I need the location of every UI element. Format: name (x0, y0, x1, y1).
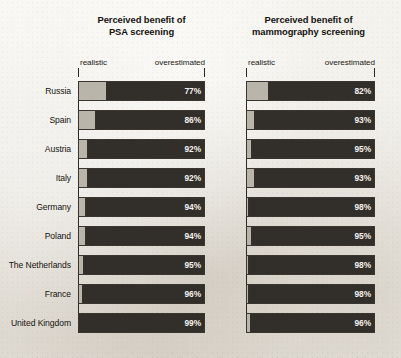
country-label-poland: Poland (45, 232, 71, 241)
panel-title-mammography: Perceived benefit of mammography screeni… (216, 14, 401, 37)
panel-title-mammography-line2: mammography screening (216, 26, 401, 38)
country-label-column: RussiaSpainAustriaItalyGermanyPolandThe … (0, 0, 71, 358)
axis-tick-psa-right (204, 68, 205, 77)
bar-value-psa-russia: 77% (185, 87, 201, 95)
paired-bar-chart-figure: Perceived benefit of PSA screening Perce… (0, 0, 401, 358)
bar-value-psa-the-netherlands: 95% (185, 261, 201, 269)
bar-row-mammography-austria: 95% (246, 139, 375, 159)
bar-segment-realistic-psa-spain (78, 110, 96, 130)
axis-label-psa-overestimated: overestimated (78, 58, 205, 67)
bar-segment-realistic-mammography-spain (246, 110, 255, 130)
country-label-the-netherlands: The Netherlands (9, 261, 71, 270)
bar-value-psa-united-kingdom: 99% (185, 319, 201, 327)
bar-value-mammography-poland: 95% (355, 232, 371, 240)
bar-value-psa-germany: 94% (185, 203, 201, 211)
bar-value-mammography-france: 98% (355, 290, 371, 298)
bar-row-psa-poland: 94% (78, 226, 205, 246)
country-label-spain: Spain (49, 116, 71, 125)
bar-row-mammography-germany: 98% (246, 197, 375, 217)
axis-tick-mammography-right (374, 68, 375, 77)
country-label-austria: Austria (45, 145, 71, 154)
bar-segment-realistic-psa-austria (78, 139, 88, 159)
panel-title-psa-line1: Perceived benefit of (97, 14, 185, 25)
bar-row-mammography-the-netherlands: 98% (246, 255, 375, 275)
country-label-germany: Germany (36, 203, 71, 212)
country-label-france: France (45, 290, 71, 299)
bar-row-psa-france: 96% (78, 284, 205, 304)
bar-row-mammography-spain: 93% (246, 110, 375, 130)
bar-value-psa-austria: 92% (185, 145, 201, 153)
axis-tick-psa-left (78, 68, 79, 77)
panel-title-mammography-line1: Perceived benefit of (264, 14, 352, 25)
bar-row-mammography-russia: 82% (246, 81, 375, 101)
bar-value-mammography-the-netherlands: 98% (355, 261, 371, 269)
country-label-united-kingdom: United Kingdom (11, 319, 71, 328)
bar-value-mammography-russia: 82% (355, 87, 371, 95)
bar-segment-realistic-psa-poland (78, 226, 86, 246)
bar-row-mammography-italy: 93% (246, 168, 375, 188)
bar-row-mammography-france: 98% (246, 284, 375, 304)
bar-value-psa-poland: 94% (185, 232, 201, 240)
bar-value-mammography-italy: 93% (355, 174, 371, 182)
bar-value-psa-spain: 86% (185, 116, 201, 124)
bar-row-psa-italy: 92% (78, 168, 205, 188)
bar-segment-realistic-mammography-russia (246, 81, 269, 101)
country-label-russia: Russia (45, 87, 71, 96)
axis-tick-mammography-left (246, 68, 247, 77)
panel-title-psa: Perceived benefit of PSA screening (50, 14, 233, 37)
bar-segment-realistic-psa-russia (78, 81, 107, 101)
bar-row-psa-russia: 77% (78, 81, 205, 101)
bar-value-mammography-spain: 93% (355, 116, 371, 124)
bar-value-mammography-germany: 98% (355, 203, 371, 211)
bar-value-psa-italy: 92% (185, 174, 201, 182)
bar-row-psa-austria: 92% (78, 139, 205, 159)
country-label-italy: Italy (56, 174, 71, 183)
bar-row-mammography-united-kingdom: 96% (246, 313, 375, 333)
bar-segment-realistic-psa-italy (78, 168, 88, 188)
bar-row-mammography-poland: 95% (246, 226, 375, 246)
bar-row-psa-the-netherlands: 95% (78, 255, 205, 275)
bar-segment-realistic-mammography-italy (246, 168, 255, 188)
bar-segment-realistic-psa-germany (78, 197, 86, 217)
bar-value-mammography-united-kingdom: 96% (355, 319, 371, 327)
bar-row-psa-united-kingdom: 99% (78, 313, 205, 333)
bar-row-psa-germany: 94% (78, 197, 205, 217)
bar-value-mammography-austria: 95% (355, 145, 371, 153)
bar-row-psa-spain: 86% (78, 110, 205, 130)
axis-label-mammography-overestimated: overestimated (246, 58, 375, 67)
bar-value-psa-france: 96% (185, 290, 201, 298)
panel-title-psa-line2: PSA screening (50, 26, 233, 38)
